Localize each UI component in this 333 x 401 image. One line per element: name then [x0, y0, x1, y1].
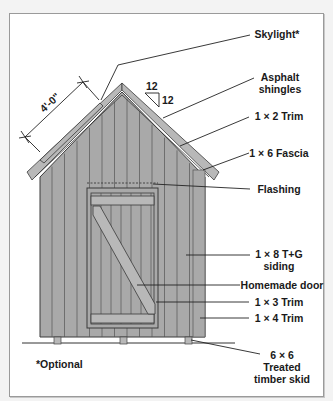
leader-trim-1x2	[180, 117, 249, 146]
roof-pitch-indicator: 12 12	[145, 80, 174, 107]
door-top-rail	[91, 196, 154, 205]
leader-fascia	[203, 153, 249, 170]
leader-skid	[191, 340, 260, 354]
label-homemade-door: Homemade door	[241, 279, 324, 291]
pitch-run: 12	[146, 80, 158, 92]
shed-elevation-drawing: 4'-0" 12 12 Skylight* Asphaltshingles 1 …	[0, 0, 333, 401]
leader-asphalt-shingles	[163, 78, 254, 118]
label-trim-1x3: 1 × 3 Trim	[255, 296, 304, 308]
label-fascia: 1 × 6 Fascia	[249, 147, 308, 159]
footnote-optional: *Optional	[36, 358, 83, 370]
label-trim-1x2: 1 × 2 Trim	[255, 110, 304, 122]
timber-skid	[185, 337, 192, 344]
label-trim-1x4: 1 × 4 Trim	[255, 312, 304, 324]
timber-skid	[54, 337, 61, 344]
dimension-label: 4'-0"	[37, 90, 62, 114]
door-bottom-rail	[91, 314, 154, 323]
label-flashing: Flashing	[257, 183, 300, 195]
label-siding: 1 × 8 T+Gsiding	[255, 248, 302, 272]
pitch-rise: 12	[162, 94, 174, 106]
label-skylight: Skylight*	[255, 28, 301, 40]
homemade-door	[87, 188, 158, 328]
timber-skid	[120, 337, 127, 344]
label-skid: 6 × 6Treatedtimber skid	[254, 349, 310, 385]
label-asphalt-shingles: Asphaltshingles	[259, 71, 302, 95]
corner-trim-1x4	[193, 170, 205, 337]
